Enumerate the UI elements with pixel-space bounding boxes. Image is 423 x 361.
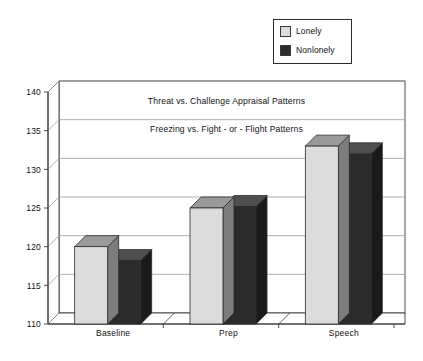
bar-prep-lonely [190, 197, 234, 324]
bar-speech-lonely [305, 135, 349, 324]
chart-svg: 110115120125130135140Threat vs. Challeng… [0, 0, 423, 361]
chart-page: Lonely Nonlonely 110115120125130135140Th… [0, 0, 423, 361]
ytick-label: 140 [26, 87, 41, 97]
bar-baseline-lonely [75, 236, 119, 324]
chart-annotation-0: Threat vs. Challenge Appraisal Patterns [148, 96, 305, 106]
ytick-label: 135 [26, 126, 41, 136]
bar-side-face [108, 236, 119, 324]
ytick-label: 120 [26, 242, 41, 252]
xtick-label-baseline: Baseline [96, 328, 130, 338]
xtick-label-speech: Speech [329, 328, 359, 338]
ytick-label: 115 [27, 281, 41, 291]
bar-side-face [371, 143, 382, 324]
bar-front-face [305, 146, 338, 324]
ytick-label: 130 [26, 165, 41, 175]
xtick-label-prep: Prep [219, 328, 238, 338]
bar-front-face [190, 208, 223, 324]
chart-annotation-1: Freezing vs. Fight - or - Flight Pattern… [150, 124, 303, 134]
bar-chart-plot: 110115120125130135140Threat vs. Challeng… [0, 0, 423, 361]
bar-side-face [141, 250, 152, 324]
bar-side-face [256, 195, 267, 324]
bar-side-face [223, 197, 234, 324]
bar-front-face [75, 247, 108, 324]
bar-side-face [338, 135, 349, 324]
ytick-label: 110 [27, 319, 41, 329]
ytick-label: 125 [26, 203, 41, 213]
